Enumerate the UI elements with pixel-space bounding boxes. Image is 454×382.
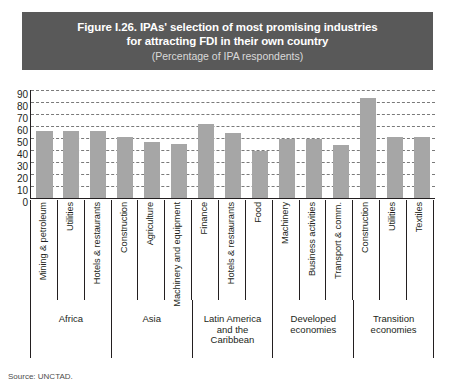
region-group-line: Latin America bbox=[193, 314, 273, 325]
bar[interactable] bbox=[117, 137, 133, 198]
figure-title-line-1: Figure I.26. IPAs' selection of most pro… bbox=[77, 20, 377, 34]
category-cell: Machinery bbox=[272, 200, 299, 300]
category-cell: Finance bbox=[191, 200, 218, 300]
figure-title-banner: Figure I.26. IPAs' selection of most pro… bbox=[22, 12, 433, 70]
bar[interactable] bbox=[90, 131, 106, 198]
y-axis-tick-70: 70 bbox=[2, 114, 28, 124]
region-group-line: Asia bbox=[112, 314, 192, 325]
category-label: Construction bbox=[120, 202, 129, 253]
bar[interactable] bbox=[333, 145, 349, 198]
figure-title-line-2: for attracting FDI in their own country bbox=[127, 34, 329, 48]
bar[interactable] bbox=[306, 139, 322, 198]
region-group-line: economies bbox=[273, 325, 353, 336]
category-cell: Construction bbox=[111, 200, 138, 300]
region-group-label: Africa bbox=[30, 300, 111, 358]
bar-slot bbox=[327, 90, 354, 198]
region-group-line: Transition bbox=[354, 314, 433, 325]
category-cell: Agriculture bbox=[137, 200, 164, 300]
bar-slot bbox=[381, 90, 408, 198]
bar-slot bbox=[273, 90, 300, 198]
y-axis-tick-20: 20 bbox=[2, 174, 28, 184]
category-cell: Mining & petroleum bbox=[30, 200, 57, 300]
category-cell: Business activities bbox=[299, 200, 326, 300]
y-axis-tick-0: 0 bbox=[2, 198, 28, 208]
category-label-band: Mining & petroleumUtilitiesHotels & rest… bbox=[30, 200, 434, 300]
y-axis: 9080706050403020100 bbox=[0, 85, 28, 193]
region-group-label: Asia bbox=[111, 300, 192, 358]
category-cell: Textiles bbox=[406, 200, 434, 300]
region-group-line: Caribbean bbox=[193, 335, 273, 346]
y-axis-tick-90: 90 bbox=[2, 90, 28, 100]
bar-slot bbox=[112, 90, 139, 198]
category-label: Utilities bbox=[388, 202, 397, 231]
region-group-label: Developedeconomies bbox=[272, 300, 353, 358]
category-cell: Machinery and equipment bbox=[164, 200, 191, 300]
y-axis-tick-60: 60 bbox=[2, 126, 28, 136]
bar-slot bbox=[166, 90, 193, 198]
region-group-line: economies bbox=[354, 325, 433, 336]
category-cell: Hotels & restaurants bbox=[218, 200, 245, 300]
bar-slot bbox=[31, 90, 58, 198]
category-label: Transport & comm. bbox=[335, 202, 344, 279]
category-label: Machinery bbox=[281, 202, 290, 244]
bar-slot bbox=[139, 90, 166, 198]
category-label: Construction bbox=[362, 202, 371, 253]
plot-area bbox=[30, 90, 435, 199]
category-label: Hotels & restaurants bbox=[93, 202, 102, 284]
category-label: Mining & petroleum bbox=[39, 202, 48, 280]
category-label: Food bbox=[254, 202, 263, 223]
bar[interactable] bbox=[414, 137, 430, 198]
bar[interactable] bbox=[225, 133, 241, 198]
category-cell: Food bbox=[245, 200, 272, 300]
category-cell: Utilities bbox=[57, 200, 84, 300]
bar-slot bbox=[85, 90, 112, 198]
category-cell: Utilities bbox=[379, 200, 406, 300]
figure-subtitle: (Percentage of IPA respondents) bbox=[152, 49, 304, 63]
y-axis-tick-80: 80 bbox=[2, 102, 28, 112]
category-label: Machinery and equipment bbox=[174, 202, 183, 307]
bar-slot bbox=[247, 90, 274, 198]
bar[interactable] bbox=[252, 151, 268, 198]
bar-slot bbox=[193, 90, 220, 198]
category-label: Business activities bbox=[308, 202, 317, 276]
bar[interactable] bbox=[63, 131, 79, 198]
bar-slot bbox=[354, 90, 381, 198]
source-note: Source: UNCTAD. bbox=[8, 372, 73, 381]
bar[interactable] bbox=[36, 131, 52, 198]
y-axis-tick-10: 10 bbox=[2, 186, 28, 196]
bar-slot bbox=[300, 90, 327, 198]
bar-chart: 9080706050403020100 Mining & petroleumUt… bbox=[0, 80, 454, 380]
category-cell: Hotels & restaurants bbox=[84, 200, 111, 300]
region-group-label: Latin Americaand theCaribbean bbox=[192, 300, 273, 358]
region-group-line: Developed bbox=[273, 314, 353, 325]
category-cell: Transport & comm. bbox=[325, 200, 352, 300]
category-label: Hotels & restaurants bbox=[227, 202, 236, 284]
bar[interactable] bbox=[198, 124, 214, 198]
category-label: Textiles bbox=[415, 202, 424, 232]
category-label: Agriculture bbox=[147, 202, 156, 245]
category-label: Utilities bbox=[66, 202, 75, 231]
bar-series bbox=[31, 90, 435, 198]
bar-slot bbox=[220, 90, 247, 198]
bar[interactable] bbox=[360, 98, 376, 198]
bar-slot bbox=[58, 90, 85, 198]
bar[interactable] bbox=[171, 144, 187, 198]
bar[interactable] bbox=[144, 142, 160, 198]
bar-slot bbox=[408, 90, 435, 198]
y-axis-tick-30: 30 bbox=[2, 162, 28, 172]
y-axis-tick-50: 50 bbox=[2, 138, 28, 148]
region-group-line: Africa bbox=[31, 314, 111, 325]
region-group-band: AfricaAsiaLatin Americaand theCaribbeanD… bbox=[30, 300, 434, 358]
bar[interactable] bbox=[279, 139, 295, 198]
category-cell: Construction bbox=[352, 200, 379, 300]
y-axis-tick-40: 40 bbox=[2, 150, 28, 160]
bar[interactable] bbox=[387, 137, 403, 198]
region-group-label: Transitioneconomies bbox=[353, 300, 434, 358]
category-label: Finance bbox=[200, 202, 209, 234]
